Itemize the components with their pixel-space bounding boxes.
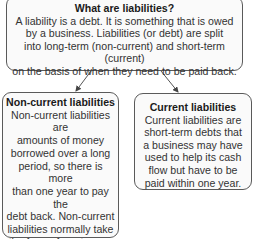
right-box-line: short-term debts that [137,126,249,139]
what-are-liabilities-box: What are liabilities? A liability is a d… [6,0,243,71]
right-box-line: Current liabilities are [137,114,249,127]
top-box-line: on the basis of when they need to be pai… [9,65,240,78]
left-box-line: Non-current liabilities are [5,109,116,134]
right-box-line: a business may have [137,139,249,152]
top-box-line: A liability is a debt. It is something t… [9,15,240,28]
top-box-title: What are liabilities? [9,2,240,15]
left-box-line: the form of mortgages [5,236,116,239]
left-box-line: period, so there is more [5,160,116,185]
left-box-title: Non-current liabilities [5,96,116,109]
right-box-line: paid within one year. [137,177,249,190]
top-box-line: by a business. Liabilities (or debt) are… [9,27,240,40]
right-box-line: flow but have to be [137,164,249,177]
left-box-line: borrowed over a long [5,147,116,160]
non-current-liabilities-box: Non-current liabilities Non-current liab… [2,92,119,238]
left-box-line: amounts of money [5,134,116,147]
left-box-line: liabilities normally take [5,223,116,236]
current-liabilities-box: Current liabilities Current liabilities … [134,93,252,190]
top-box-line: into long-term (non-current) and short-t… [9,40,240,65]
right-box-title: Current liabilities [137,101,249,114]
left-box-line: than one year to pay the [5,185,116,210]
right-box-line: used to help its cash [137,151,249,164]
left-box-line: debt back. Non-current [5,210,116,223]
